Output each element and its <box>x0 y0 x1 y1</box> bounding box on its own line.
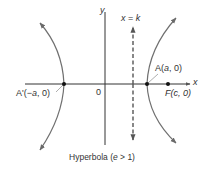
directrix-label-eq: = <box>126 13 136 23</box>
hyperbola-diagram <box>0 0 204 170</box>
directrix-label-k: k <box>136 13 141 23</box>
diagram-caption: Hyperbola (e > 1) <box>0 152 204 162</box>
vertex-right-close: , 0) <box>169 63 182 73</box>
caption-main: Hyperbola ( <box>69 152 113 162</box>
vertex-left-point <box>62 82 66 86</box>
focus-point <box>166 82 170 86</box>
right-branch-upper <box>147 18 176 84</box>
vertex-right-leader <box>148 74 158 83</box>
caption-rest: > 1) <box>118 152 135 162</box>
vertex-right-label: A(a, 0) <box>155 64 182 73</box>
focus-close: , 0) <box>178 88 191 98</box>
directrix-label: x = k <box>121 14 140 23</box>
vertex-left-leader <box>56 85 63 92</box>
origin-label: 0 <box>96 88 101 97</box>
vertex-right-point <box>145 82 149 86</box>
vertex-left-label: A'(−a, 0) <box>16 89 50 98</box>
y-axis-label: y <box>100 6 105 15</box>
left-branch-upper <box>40 23 64 84</box>
vertex-left-name: A' <box>16 88 24 98</box>
x-axis-label: x <box>193 78 198 87</box>
vertex-left-close: , 0) <box>37 88 50 98</box>
focus-label: F(c, 0) <box>165 89 191 98</box>
vertex-left-open: (− <box>24 88 32 98</box>
